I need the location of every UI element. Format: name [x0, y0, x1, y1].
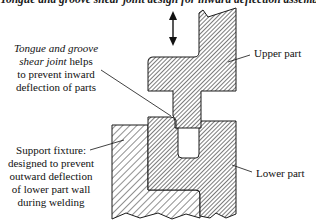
- joint-annotation-term: shear joint: [19, 55, 66, 67]
- upper-part-label: Upper part: [254, 47, 301, 60]
- fixture-annotation-line2: designed to prevent: [4, 157, 98, 170]
- joint-annotation-helps: helps: [67, 55, 93, 67]
- lower-part-label: Lower part: [256, 167, 305, 180]
- fixture-annotation-line1: Support fixture:: [4, 144, 98, 157]
- double-vertical-arrow-icon: [169, 11, 177, 46]
- joint-annotation-line4: deflection of parts: [6, 81, 106, 94]
- fixture-annotation-line5: during welding: [4, 196, 98, 209]
- joint-annotation-line2: shear joint helps: [6, 55, 106, 68]
- joint-annotation-line1: Tongue and groove: [6, 42, 106, 55]
- joint-annotation: Tongue and groove shear joint helps to p…: [6, 42, 106, 94]
- fixture-annotation-line4: of lower part wall: [4, 183, 98, 196]
- fixture-annotation: Support fixture: designed to prevent out…: [4, 144, 98, 209]
- fixture-annotation-line3: outward deflection: [4, 170, 98, 183]
- joint-annotation-line3: to prevent inward: [6, 68, 106, 81]
